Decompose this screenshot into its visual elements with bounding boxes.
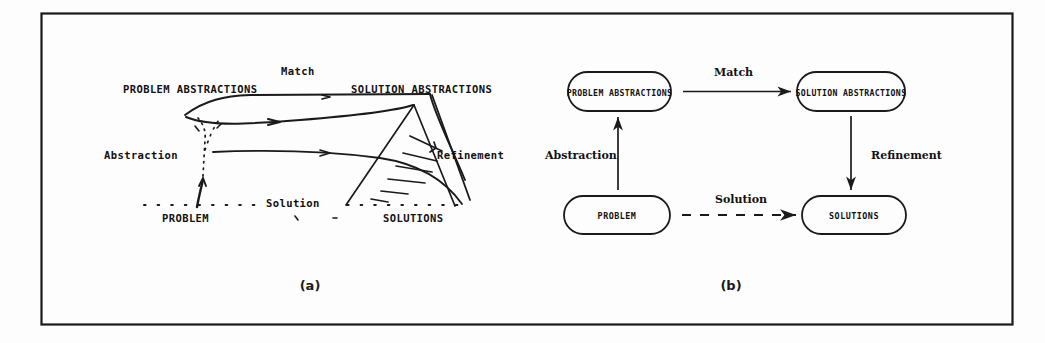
caption-b: (b) <box>720 278 741 293</box>
label-abstraction-a: Abstraction <box>104 149 178 161</box>
node-problem-abstractions-label: PROBLEM ABSTRACTIONS <box>567 88 673 98</box>
label-match-a: Match <box>281 65 315 77</box>
node-solution-abstractions[interactable]: SOLUTION ABSTRACTIONS <box>796 72 907 111</box>
caption-a: (a) <box>300 278 321 293</box>
node-solution-abstractions-label: SOLUTION ABSTRACTIONS <box>796 88 907 98</box>
edge-abstraction-label: Abstraction <box>544 149 617 162</box>
node-solutions[interactable]: SOLUTIONS <box>802 196 906 234</box>
label-problem-a: PROBLEM <box>162 212 209 224</box>
abstraction-dotted-trail <box>198 118 205 176</box>
label-solution-abstractions-a: SOLUTION ABSTRACTIONS <box>351 83 492 95</box>
figure-border <box>42 14 1013 325</box>
label-problem-abstractions-a: PROBLEM ABSTRACTIONS <box>123 83 257 95</box>
node-problem[interactable]: PROBLEM <box>564 196 670 234</box>
match-curve-upper-arrowhead <box>322 95 330 99</box>
abstraction-tick-left <box>195 126 199 131</box>
node-problem-label: PROBLEM <box>598 211 637 221</box>
panel-b: PROBLEM ABSTRACTIONS SOLUTION ABSTRACTIO… <box>544 66 943 234</box>
refinement-outer-edge <box>432 95 470 200</box>
abstraction-tick-right <box>217 124 221 128</box>
match-curve-upper <box>185 94 430 115</box>
node-problem-abstractions[interactable]: PROBLEM ABSTRACTIONS <box>567 72 673 111</box>
edge-match-label: Match <box>714 66 753 79</box>
speck-solution <box>295 216 298 220</box>
label-refinement-a: Refinement <box>437 149 504 161</box>
abstraction-dotted-trail-b <box>205 120 219 150</box>
figure-container: PROBLEM ABSTRACTIONS SOLUTION ABSTRACTIO… <box>0 0 1045 343</box>
edge-refinement-label: Refinement <box>871 149 943 162</box>
refinement-hatching <box>371 136 442 202</box>
edge-solution-label: Solution <box>715 193 767 206</box>
match-curve-lower <box>186 105 413 124</box>
label-solutions-a: SOLUTIONS <box>383 212 444 224</box>
node-solutions-label: SOLUTIONS <box>829 211 879 221</box>
panel-a: PROBLEM ABSTRACTIONS SOLUTION ABSTRACTIO… <box>104 65 504 224</box>
label-solution-a: Solution <box>266 197 320 209</box>
